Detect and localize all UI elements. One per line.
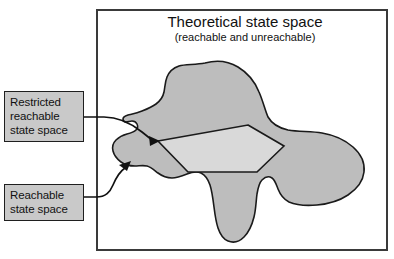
page-title: Theoretical state space [150,14,340,31]
callout-reachable-state-space: Reachable state space [4,184,84,221]
callout-reachable-line-2: state space [10,202,78,216]
callout-restricted-line-3: state space [10,123,78,137]
callout-restricted-line-2: reachable [10,109,78,123]
callout-reachable-line-1: Reachable [10,188,78,202]
page-subtitle: (reachable and unreachable) [150,31,340,44]
callout-restricted-line-1: Restricted [10,95,78,109]
diagram-canvas: Theoretical state space (reachable and u… [0,0,394,259]
diagram-title-group: Theoretical state space (reachable and u… [150,14,340,44]
callout-restricted-reachable-state-space: Restricted reachable state space [4,91,84,142]
